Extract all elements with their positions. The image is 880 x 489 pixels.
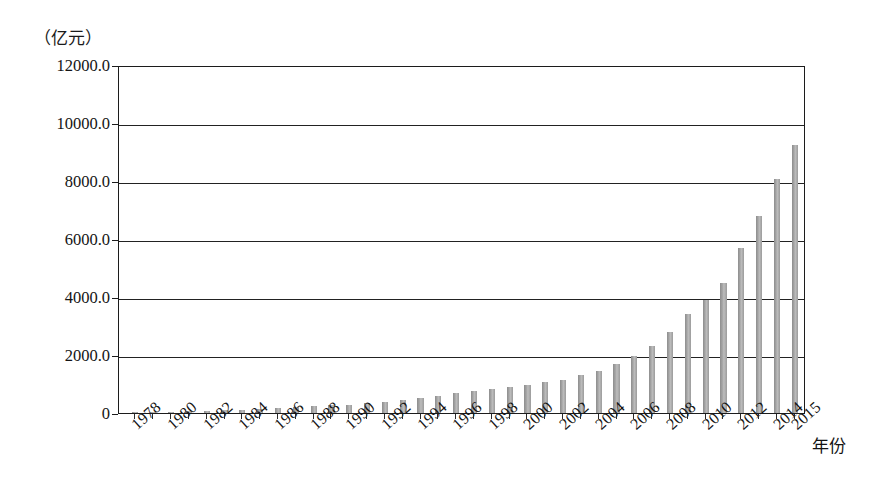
x-tick-mark [277, 414, 278, 419]
x-tick-mark [705, 414, 706, 419]
x-tick-mark [437, 414, 438, 419]
y-tick-label: 8000.0 [0, 172, 110, 192]
y-tick-label: 6000.0 [0, 230, 110, 250]
bar [560, 380, 566, 413]
y-tick-mark [112, 240, 118, 241]
y-tick-mark [112, 356, 118, 357]
x-tick-mark [206, 414, 207, 419]
x-tick-mark [526, 414, 527, 419]
x-tick-mark [313, 414, 314, 419]
x-tick-mark [170, 414, 171, 419]
x-tick-mark [295, 414, 296, 419]
y-axis-unit-label: （亿元） [34, 24, 102, 49]
y-tick-mark [112, 298, 118, 299]
x-tick-mark [722, 414, 723, 419]
y-tick-label: 4000.0 [0, 288, 110, 308]
x-tick-mark [402, 414, 403, 419]
bar [720, 283, 726, 414]
y-tick-label: 12000.0 [0, 56, 110, 76]
x-tick-mark [562, 414, 563, 419]
x-tick-mark [669, 414, 670, 419]
x-tick-mark [491, 414, 492, 419]
bar [792, 145, 798, 413]
chart-figure: （亿元） 19781980198219841986198819901992199… [0, 0, 880, 489]
gridline [119, 183, 804, 184]
x-tick-mark [224, 414, 225, 419]
x-tick-mark [188, 414, 189, 419]
x-tick-mark [580, 414, 581, 419]
y-tick-label: 0 [0, 404, 110, 424]
bar [631, 356, 637, 413]
y-tick-mark [112, 182, 118, 183]
gridline [119, 241, 804, 242]
x-tick-mark [758, 414, 759, 419]
y-tick-label: 10000.0 [0, 114, 110, 134]
x-tick-mark [259, 414, 260, 419]
x-tick-mark [794, 414, 795, 419]
plot-area [118, 66, 805, 414]
x-tick-mark [420, 414, 421, 419]
x-tick-mark [473, 414, 474, 419]
x-axis-title: 年份 [812, 432, 846, 457]
gridline [119, 357, 804, 358]
bar [738, 248, 744, 413]
x-tick-mark [152, 414, 153, 419]
x-tick-mark [633, 414, 634, 419]
x-tick-mark [651, 414, 652, 419]
x-tick-mark [776, 414, 777, 419]
bar [596, 371, 602, 413]
x-tick-mark [509, 414, 510, 419]
x-tick-mark [241, 414, 242, 419]
x-tick-mark [366, 414, 367, 419]
x-tick-mark [687, 414, 688, 419]
bar [756, 216, 762, 413]
y-tick-mark [112, 414, 118, 415]
bar [774, 179, 780, 413]
x-tick-mark [598, 414, 599, 419]
gridline [119, 299, 804, 300]
x-axis-tick-labels: 1978198019821984198619881990199219941996… [0, 414, 880, 489]
bar [524, 385, 530, 413]
y-tick-mark [112, 66, 118, 67]
x-tick-mark [544, 414, 545, 419]
gridline [119, 125, 804, 126]
x-tick-mark [348, 414, 349, 419]
x-tick-mark [384, 414, 385, 419]
x-tick-mark [330, 414, 331, 419]
x-tick-mark [616, 414, 617, 419]
x-tick-mark [455, 414, 456, 419]
bar [703, 300, 709, 413]
y-tick-label: 2000.0 [0, 346, 110, 366]
y-tick-mark [112, 124, 118, 125]
x-tick-mark [740, 414, 741, 419]
x-tick-mark [134, 414, 135, 419]
bar [667, 332, 673, 413]
bar [489, 389, 495, 413]
